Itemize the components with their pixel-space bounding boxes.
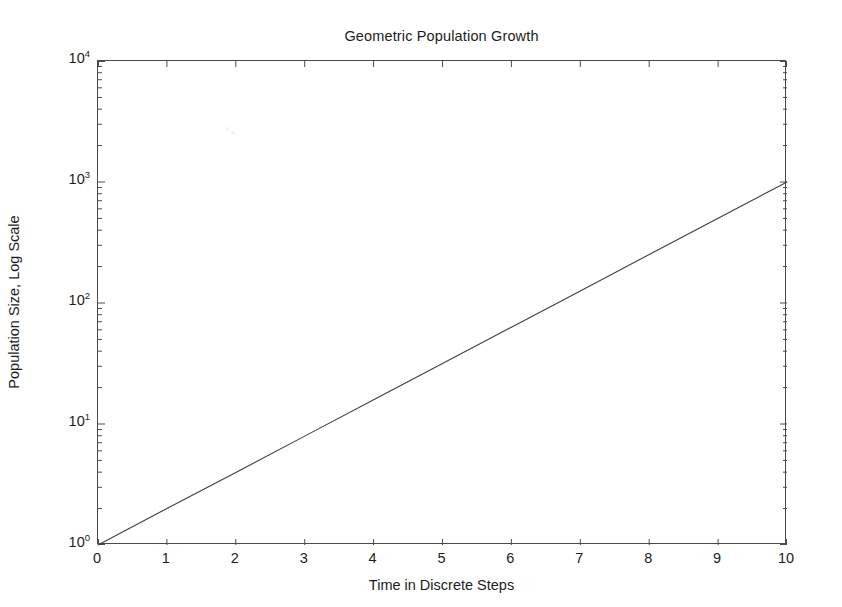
- x-axis-title: Time in Discrete Steps: [97, 577, 786, 593]
- x-tick-label: 7: [575, 551, 583, 566]
- y-axis-title-wrap: Population Size, Log Scale: [0, 60, 28, 544]
- x-axis-tick-labels: 012345678910: [0, 0, 842, 607]
- x-tick-label: 5: [437, 551, 445, 566]
- x-tick-label: 0: [93, 551, 101, 566]
- x-tick-label: 3: [300, 551, 308, 566]
- x-tick-label: 1: [162, 551, 170, 566]
- x-tick-label: 2: [231, 551, 239, 566]
- figure-canvas: Geometric Population Growth 104103102101…: [0, 0, 842, 607]
- x-tick-label: 8: [644, 551, 652, 566]
- x-tick-label: 9: [713, 551, 721, 566]
- y-axis-title: Population Size, Log Scale: [6, 215, 22, 388]
- x-tick-label: 10: [778, 551, 794, 566]
- x-tick-label: 4: [369, 551, 377, 566]
- x-tick-label: 6: [506, 551, 514, 566]
